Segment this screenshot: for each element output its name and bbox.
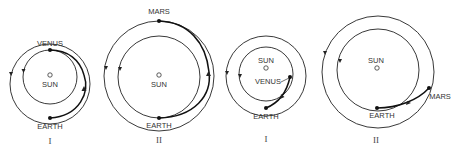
sun-icon <box>157 73 161 77</box>
panel-mars-4: SUN MARS EARTH II <box>322 16 451 145</box>
earth-dot <box>264 106 268 110</box>
mars-dot <box>157 19 161 23</box>
earth-label: EARTH <box>369 111 394 120</box>
earth-label: EARTH <box>37 122 62 131</box>
orbit-arrow-icon <box>9 72 13 76</box>
panel-mars-2: MARS SUN EARTH II <box>104 7 214 145</box>
venus-leader-line <box>281 78 289 82</box>
venus-dot <box>48 48 52 52</box>
venus-label: VENUS <box>255 77 281 86</box>
orbit-arrow-icon <box>338 59 342 63</box>
earth-dot <box>48 116 52 120</box>
orbit-arrow-icon <box>238 74 242 78</box>
earth-label: EARTH <box>253 112 278 121</box>
transfer-arrow-icon <box>206 71 211 76</box>
panel-numeral: II <box>156 135 162 145</box>
mars-label: MARS <box>148 7 170 16</box>
panel-numeral: I <box>265 134 268 144</box>
transfer-path <box>159 21 209 118</box>
mars-label: MARS <box>429 92 451 101</box>
sun-label: SUN <box>151 80 167 89</box>
earth-orbit <box>226 36 306 116</box>
earth-dot <box>375 106 379 110</box>
orbit-arrow-icon <box>323 51 327 55</box>
panel-venus-1: VENUS SUN EARTH I <box>9 39 90 146</box>
panel-venus-3: SUN VENUS EARTH I <box>225 36 306 144</box>
panel-numeral: II <box>373 135 379 145</box>
sun-label: SUN <box>258 56 274 65</box>
earth-dot <box>157 116 161 120</box>
sun-icon <box>375 66 379 70</box>
panel-numeral: I <box>49 136 52 146</box>
sun-label: SUN <box>42 80 58 89</box>
orbit-arrow-icon <box>22 69 26 73</box>
venus-label: VENUS <box>37 39 63 48</box>
transfer-path <box>377 88 429 108</box>
orbit-diagrams: VENUS SUN EARTH I MARS SUN EARTH II SUN … <box>0 0 458 153</box>
sun-icon <box>48 73 52 77</box>
sun-icon <box>264 66 268 70</box>
mars-dot <box>427 86 431 90</box>
sun-label: SUN <box>368 56 384 65</box>
earth-label: EARTH <box>146 121 171 130</box>
